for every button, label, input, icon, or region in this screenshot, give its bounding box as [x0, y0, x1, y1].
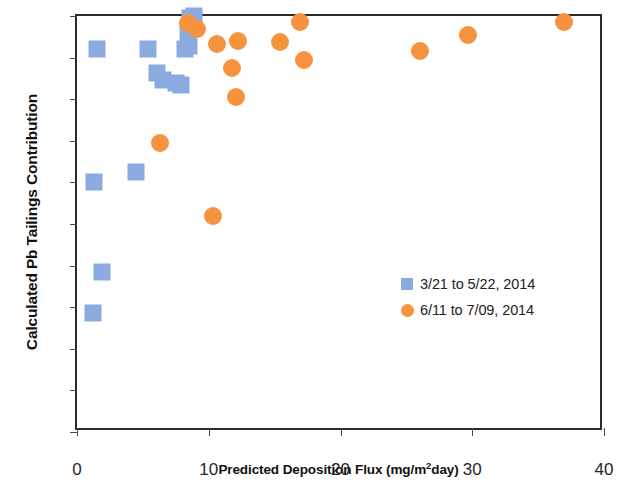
y-tick-mark	[70, 99, 77, 100]
data-point-series-1	[180, 37, 197, 54]
data-point-series-2	[295, 51, 313, 69]
x-tick-mark	[209, 428, 210, 436]
y-tick-mark	[70, 390, 77, 391]
x-tick-mark	[341, 428, 342, 436]
x-tick-mark	[472, 428, 473, 436]
legend-label: 6/11 to 7/09, 2014	[420, 302, 534, 318]
x-tick-label: 20	[311, 460, 371, 480]
x-tick-label: 0	[47, 460, 107, 480]
data-point-series-1	[173, 76, 190, 93]
legend-item[interactable]: 3/21 to 5/22, 2014	[401, 271, 586, 297]
y-tick-mark	[70, 182, 77, 183]
data-point-series-1	[94, 263, 111, 280]
legend-square-marker-icon	[401, 278, 413, 290]
data-point-series-2	[555, 13, 573, 31]
x-tick-mark	[77, 428, 78, 436]
y-tick-mark	[70, 224, 77, 225]
y-tick-mark	[70, 141, 77, 142]
data-point-series-2	[411, 42, 429, 60]
y-tick-mark	[70, 16, 77, 17]
data-point-series-1	[128, 164, 145, 181]
y-tick-mark	[70, 307, 77, 308]
legend-label: 3/21 to 5/22, 2014	[420, 276, 535, 292]
data-point-series-2	[188, 20, 206, 38]
data-point-series-1	[84, 305, 101, 322]
data-point-series-2	[229, 32, 247, 50]
data-point-series-2	[151, 134, 169, 152]
y-tick-mark	[70, 58, 77, 59]
data-point-series-2	[223, 59, 241, 77]
x-tick-label: 10	[179, 460, 239, 480]
y-tick-mark	[70, 432, 77, 433]
data-point-series-2	[291, 13, 309, 31]
data-point-series-2	[271, 33, 289, 51]
data-point-series-1	[88, 41, 105, 58]
legend-item[interactable]: 6/11 to 7/09, 2014	[401, 297, 586, 323]
x-tick-label: 30	[442, 460, 502, 480]
legend-circle-marker-icon	[401, 304, 414, 317]
y-axis-title: Calculated Pb Tailings Contribution	[23, 57, 41, 387]
y-tick-mark	[70, 349, 77, 350]
data-point-series-1	[86, 174, 103, 191]
plot-area: 00.10.20.30.40.50.60.70.80.91 010203040 …	[75, 14, 602, 430]
data-point-series-2	[204, 207, 222, 225]
data-point-series-2	[208, 35, 226, 53]
data-point-series-1	[140, 41, 157, 58]
chart-legend: 3/21 to 5/22, 20146/11 to 7/09, 2014	[401, 271, 586, 323]
x-tick-mark	[604, 428, 605, 436]
x-tick-label: 40	[574, 460, 618, 480]
y-tick-mark	[70, 266, 77, 267]
data-point-series-2	[227, 88, 245, 106]
data-point-series-2	[459, 26, 477, 44]
